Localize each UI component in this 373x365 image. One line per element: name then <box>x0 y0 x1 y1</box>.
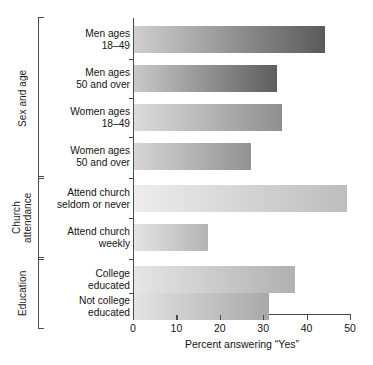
y-tick <box>129 59 133 60</box>
category-label: Men ages 50 and over <box>18 67 130 91</box>
y-tick <box>129 178 133 179</box>
y-tick <box>129 98 133 99</box>
x-tick <box>220 315 221 320</box>
category-label: College educated <box>18 268 130 292</box>
category-label-text: Men ages 50 and over <box>18 67 130 91</box>
category-label-text: Women ages 18–49 <box>18 106 130 130</box>
x-axis-title: Percent answering “Yes” <box>133 338 351 350</box>
category-label: Not college educated <box>18 295 130 319</box>
x-tick-label: 50 <box>344 323 356 334</box>
bar <box>134 143 251 170</box>
y-tick <box>129 293 133 294</box>
x-tick <box>263 315 264 320</box>
x-tick-label: 20 <box>214 323 226 334</box>
category-label-text: Women ages 50 and over <box>18 145 130 169</box>
category-label: Men ages 18–49 <box>18 28 130 52</box>
bar-chart: Sex and ageChurch attendanceEducation Me… <box>0 0 373 365</box>
bar <box>134 185 347 212</box>
category-label-text: Attend church weekly <box>18 226 130 250</box>
bar <box>134 224 208 251</box>
y-tick <box>129 137 133 138</box>
x-tick <box>307 315 308 320</box>
plot-area: 01020304050 <box>133 18 351 315</box>
bar <box>134 104 282 131</box>
bar <box>134 293 269 320</box>
category-label-text: Not college educated <box>18 295 130 319</box>
bar <box>134 266 295 293</box>
x-tick <box>133 315 134 320</box>
bar <box>134 26 325 53</box>
category-label: Attend church seldom or never <box>18 187 130 211</box>
x-tick <box>350 315 351 320</box>
y-tick <box>129 259 133 260</box>
x-tick-label: 30 <box>257 323 269 334</box>
category-label-text: College educated <box>18 268 130 292</box>
x-tick-label: 10 <box>171 323 183 334</box>
bar <box>134 65 277 92</box>
category-label: Women ages 18–49 <box>18 106 130 130</box>
category-label-text: Men ages 18–49 <box>18 28 130 52</box>
y-tick <box>129 218 133 219</box>
x-tick-label: 0 <box>130 323 136 334</box>
category-label: Women ages 50 and over <box>18 145 130 169</box>
x-tick <box>176 315 177 320</box>
category-label-text: Attend church seldom or never <box>18 187 130 211</box>
category-label: Attend church weekly <box>18 226 130 250</box>
x-tick-label: 40 <box>301 323 313 334</box>
